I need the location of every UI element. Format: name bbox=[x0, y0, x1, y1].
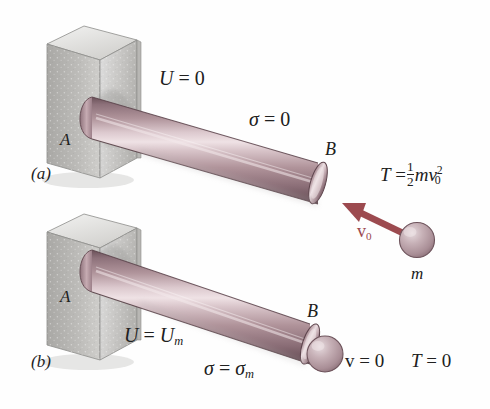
panel-tag-a: (a) bbox=[31, 164, 51, 184]
strain-energy-symbol-a: U bbox=[159, 67, 173, 89]
kinetic-energy-zero-label: T = 0 bbox=[411, 351, 451, 370]
fraction-denominator: 2 bbox=[407, 174, 414, 189]
panel-tag-b: (b) bbox=[31, 352, 51, 372]
physics-figure: A U = 0 σ = 0 B (a) T =12mv20 v0 m A U =… bbox=[0, 0, 490, 409]
stress-value-a: 0 bbox=[280, 108, 290, 130]
stress-label-b: σ = σm bbox=[204, 358, 254, 381]
figure-artwork bbox=[0, 0, 490, 409]
mass-label: m bbox=[411, 265, 423, 282]
projectile-artwork bbox=[342, 203, 435, 258]
equals-sign: = bbox=[219, 357, 230, 379]
rod-root-cap-b bbox=[80, 250, 92, 292]
strain-energy-symbol-b: U bbox=[124, 324, 138, 346]
velocity-symbol-b: v bbox=[345, 350, 355, 371]
stress-subscript-b: m bbox=[245, 367, 254, 381]
equals-sign: = bbox=[143, 324, 154, 346]
free-end-label-b: B bbox=[307, 302, 318, 320]
fraction-numerator: 1 bbox=[407, 160, 414, 174]
strain-energy-label-a: U = 0 bbox=[159, 68, 205, 88]
strain-energy-label-b: U = Um bbox=[124, 325, 183, 348]
equals-sign: = bbox=[359, 350, 370, 371]
kinetic-energy-subscript: 0 bbox=[435, 174, 441, 187]
projectile-sphere bbox=[400, 223, 435, 258]
resting-sphere bbox=[307, 336, 343, 372]
support-label-a: A bbox=[60, 131, 70, 148]
support-label-b: A bbox=[60, 288, 70, 305]
wall-side-face-b bbox=[47, 232, 100, 360]
equals-sign: = bbox=[264, 108, 275, 130]
kinetic-energy-equation: T =12mv20 bbox=[380, 160, 441, 188]
velocity-arrow bbox=[342, 203, 409, 236]
stress-label-a: σ = 0 bbox=[249, 109, 290, 129]
stress-value-b: σ bbox=[235, 357, 245, 379]
rod-root-cap-a bbox=[80, 97, 92, 139]
one-half-fraction: 12 bbox=[407, 160, 414, 188]
wall-side-face-a bbox=[47, 44, 100, 178]
velocity-symbol: v bbox=[357, 221, 366, 241]
kinetic-energy-value-b: 0 bbox=[442, 350, 452, 371]
strain-energy-value-b: U bbox=[160, 324, 174, 346]
stress-symbol-b: σ bbox=[204, 357, 214, 379]
wall-top-face-b bbox=[47, 214, 137, 248]
free-end-label-a: B bbox=[325, 140, 336, 158]
stress-symbol-a: σ bbox=[249, 108, 259, 130]
wall-front-face-a bbox=[100, 40, 137, 178]
velocity-label-projectile: v0 bbox=[357, 222, 372, 242]
equals-sign: = bbox=[395, 164, 406, 185]
kinetic-energy-body: mv bbox=[415, 164, 437, 185]
panel-b-artwork bbox=[42, 214, 343, 372]
strain-energy-value-a: 0 bbox=[195, 67, 205, 89]
kinetic-energy-symbol: T bbox=[380, 164, 391, 185]
velocity-zero-label: v = 0 bbox=[345, 351, 384, 370]
equals-sign: = bbox=[178, 67, 189, 89]
strain-energy-subscript-b: m bbox=[174, 334, 183, 348]
kinetic-energy-symbol-b: T bbox=[411, 350, 422, 371]
velocity-subscript: 0 bbox=[366, 230, 372, 242]
rod-end-cap-a bbox=[305, 160, 331, 205]
wall-top-face-a bbox=[47, 26, 137, 60]
velocity-value-b: 0 bbox=[375, 350, 385, 371]
rod-end-cap-b bbox=[296, 322, 323, 367]
equals-sign: = bbox=[426, 350, 437, 371]
